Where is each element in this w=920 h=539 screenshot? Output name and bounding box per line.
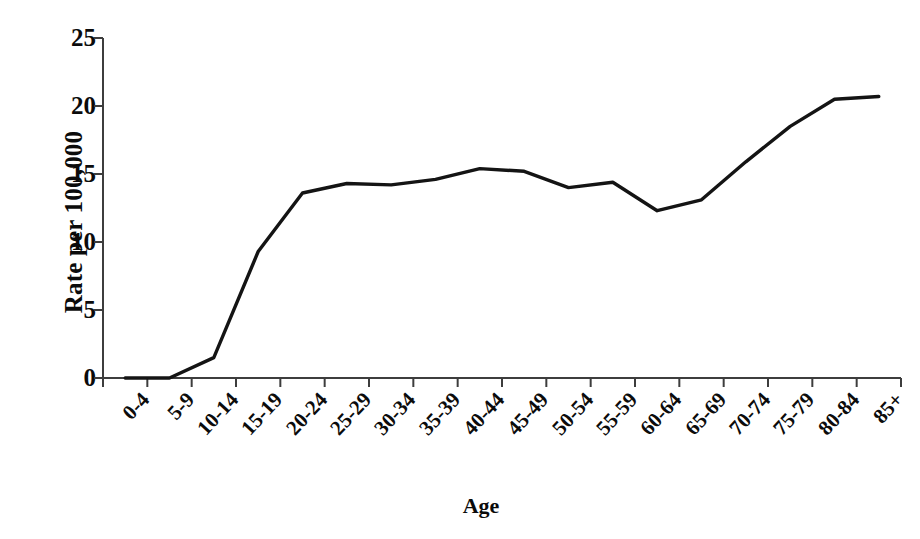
- line-chart: Rate per 100,000 0510152025 0-45-910-141…: [0, 0, 920, 539]
- x-axis-title-text: Age: [463, 493, 500, 519]
- x-axis-title: Age: [0, 493, 920, 519]
- x-axis-tick-labels: 0-45-910-1415-1920-2425-2930-3435-3940-4…: [0, 0, 920, 539]
